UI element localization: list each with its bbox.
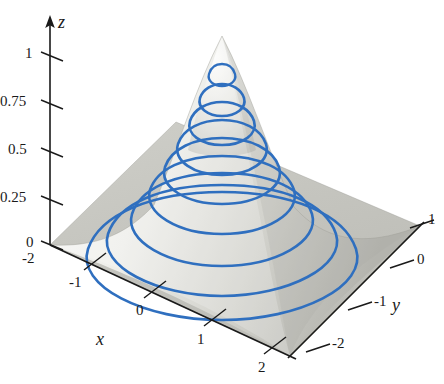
y-tick-label--2: -2 [332, 336, 345, 351]
y-tick [306, 344, 330, 352]
z-tick [41, 52, 63, 61]
y-tick-label--1: -1 [374, 294, 387, 309]
z-axis [41, 15, 63, 250]
x-tick-label-2: 2 [258, 360, 266, 375]
z-tick-label-0: 0 [26, 235, 34, 250]
surface-plot-figure: 1 0.75 0.5 0.25 0 z -2 -1 0 1 2 x -2 -1 … [0, 0, 444, 384]
y-tick-label-1: 1 [428, 212, 436, 227]
y-axis-title: y [392, 296, 400, 314]
z-tick [41, 148, 63, 157]
x-tick-label-1: 1 [197, 332, 205, 347]
y-tick-label-0: 0 [417, 252, 425, 267]
x-tick-label-0: 0 [136, 303, 144, 318]
x-axis-title: x [96, 330, 104, 348]
y-tick [348, 302, 372, 310]
y-tick [390, 260, 414, 268]
x-tick-label--2: -2 [22, 251, 35, 266]
z-tick [41, 100, 63, 109]
z-tick-label-075: 0.75 [0, 94, 26, 109]
z-tick-label-025: 0.25 [0, 190, 26, 205]
z-tick-label-1: 1 [25, 46, 33, 61]
z-tick-label-05: 0.5 [8, 142, 27, 157]
z-axis-title: z [58, 13, 65, 31]
z-tick [41, 196, 63, 205]
x-tick-label--1: -1 [69, 275, 82, 290]
plot-canvas [0, 0, 444, 384]
